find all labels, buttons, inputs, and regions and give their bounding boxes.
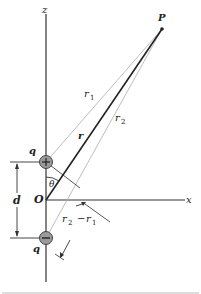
r2-line bbox=[46, 29, 162, 238]
negative-charge-label: q bbox=[33, 243, 40, 254]
positive-charge-label: q bbox=[29, 145, 36, 156]
z-axis-label: z bbox=[41, 4, 48, 15]
r-line bbox=[46, 29, 162, 200]
point-p-dot bbox=[160, 27, 164, 31]
point-p-label: P bbox=[157, 12, 166, 23]
diff-r1-sub: 1 bbox=[92, 219, 96, 227]
diff-minus: − bbox=[77, 213, 85, 224]
dipole-diagram: z x O P r r 1 r 2 θ d q q r 2 − r 1 bbox=[0, 0, 201, 294]
d-arrow-up bbox=[15, 163, 19, 169]
r2-sub: 2 bbox=[121, 118, 125, 126]
r1-line bbox=[46, 29, 162, 162]
x-axis-label: x bbox=[186, 194, 192, 205]
origin-label: O bbox=[34, 193, 44, 206]
r-label: r bbox=[78, 130, 84, 141]
d-label: d bbox=[13, 194, 21, 207]
theta-label: θ bbox=[49, 179, 55, 189]
d-arrow-down bbox=[15, 231, 19, 237]
r1-sub: 1 bbox=[90, 94, 94, 102]
diff-r2-sub: 2 bbox=[68, 219, 72, 227]
